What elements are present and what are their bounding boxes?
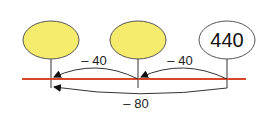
jump-label-left: – 40: [81, 53, 106, 68]
start-value: 440: [210, 29, 243, 51]
jump-arc-left: [54, 68, 138, 79]
answer-bubble-2[interactable]: [110, 21, 166, 59]
jump-arc-bottom: [54, 87, 227, 94]
jump-arc-right: [141, 68, 227, 79]
jump-label-right: – 40: [167, 53, 192, 68]
number-line-diagram: 440 – 40 – 40 – 80: [0, 0, 271, 118]
jump-label-bottom: – 80: [123, 96, 148, 111]
answer-bubble-1[interactable]: [23, 21, 79, 59]
